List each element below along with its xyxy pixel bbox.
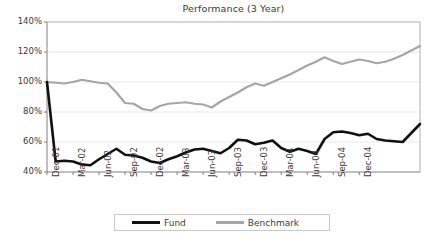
legend-swatch-benchmark-icon: [216, 221, 244, 224]
y-axis-tick-label: 100%: [2, 76, 42, 86]
legend-swatch-fund-icon: [132, 221, 160, 224]
y-axis-tick-label: 40%: [2, 166, 42, 176]
legend-label-benchmark: Benchmark: [248, 218, 299, 228]
x-axis-tick-label: Jun-03: [207, 150, 217, 177]
chart-legend: Fund Benchmark: [114, 214, 330, 231]
x-axis-tick-label: Mar-02: [77, 148, 87, 177]
y-axis-tick-label: 140%: [2, 16, 42, 26]
legend-item-fund: Fund: [132, 215, 186, 230]
x-axis-tick-label: Mar-03: [181, 148, 191, 177]
performance-chart: Performance (3 Year) 40%60%80%100%120%14…: [0, 0, 440, 237]
x-axis-tick-label: Sep-02: [129, 147, 139, 177]
plot-area: [0, 0, 440, 237]
x-axis-tick-label: Mar-04: [285, 148, 295, 177]
x-axis-tick-label: Jun-02: [103, 150, 113, 177]
x-axis-tick-label: Sep-03: [233, 147, 243, 177]
x-axis-tick-label: Dec-01: [51, 147, 61, 177]
x-axis-tick-label: Jun-04: [311, 150, 321, 177]
y-axis-tick-label: 60%: [2, 136, 42, 146]
x-axis-tick-label: Dec-03: [259, 147, 269, 177]
y-axis-tick-label: 80%: [2, 106, 42, 116]
y-axis-tick-label: 120%: [2, 46, 42, 56]
legend-label-fund: Fund: [164, 218, 186, 228]
x-axis-tick-label: Dec-04: [363, 147, 373, 177]
x-axis-tick-label: Dec-02: [155, 147, 165, 177]
legend-item-benchmark: Benchmark: [216, 215, 299, 230]
x-axis-tick-label: Sep-04: [337, 147, 347, 177]
